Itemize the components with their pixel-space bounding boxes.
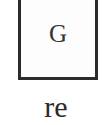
box-label: G bbox=[21, 20, 95, 48]
caption-text: re bbox=[0, 92, 112, 122]
diagram-box: G bbox=[18, 0, 98, 80]
